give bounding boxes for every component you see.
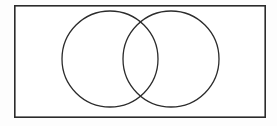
venn-diagram-canvas	[0, 0, 277, 126]
region-a-only[interactable]	[76, 43, 108, 75]
region-outside-universe[interactable]	[18, 9, 58, 35]
venn-diagram-figure	[0, 0, 277, 126]
region-b-only[interactable]	[173, 43, 205, 75]
region-intersection[interactable]	[126, 27, 156, 91]
